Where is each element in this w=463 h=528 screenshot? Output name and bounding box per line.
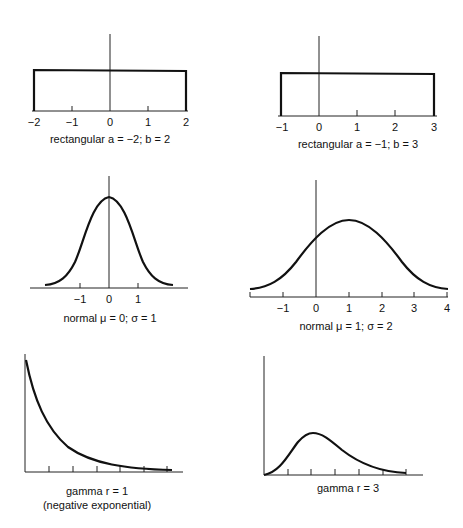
panel-gamma-2: gamma r = 3 [264,356,423,494]
tick-label: −1 [66,116,79,128]
density-curve [250,220,448,289]
density-curve [264,433,406,475]
panel-caption: normal μ = 0; σ = 1 [63,312,156,324]
panel-caption: gamma r = 1 [66,485,128,497]
panel-subcaption: (negative exponential) [43,499,151,511]
panel-caption: normal μ = 1; σ = 2 [299,320,392,332]
panel-caption: rectangular a = −2; b = 2 [50,133,170,145]
tick-label: 0 [107,116,113,128]
tick-label: 3 [431,121,437,133]
tick-label: 2 [379,302,385,314]
tick-label: 2 [392,121,398,133]
tick-label: 0 [313,302,319,314]
density-curve [281,73,434,116]
tick-label: 0 [106,293,112,305]
tick-label: 0 [316,121,322,133]
tick-label: −1 [276,121,289,133]
tick-label: 2 [183,116,189,128]
density-curve [26,360,172,470]
panel-normal-2: −1 0 1 2 3 4 normal μ = 1; σ = 2 [250,180,450,332]
panel-gamma-1: gamma r = 1 (negative exponential) [25,354,183,511]
panel-rectangular-1: −2 −1 0 1 2 rectangular a = −2; b = 2 [28,34,189,145]
panel-rectangular-2: −1 0 1 2 3 rectangular a = −1; b = 3 [276,36,437,150]
panel-normal-1: −1 0 1 normal μ = 0; σ = 1 [30,176,188,324]
tick-label: 1 [145,116,151,128]
tick-label: −2 [28,116,41,128]
tick-label: 1 [135,293,141,305]
tick-label: −1 [74,293,87,305]
tick-label: 3 [411,302,417,314]
tick-label: 4 [444,302,450,314]
panel-caption: rectangular a = −1; b = 3 [298,138,418,150]
tick-label: 1 [354,121,360,133]
tick-label: −1 [277,302,290,314]
distribution-figure: −2 −1 0 1 2 rectangular a = −2; b = 2 −1… [0,0,463,528]
panel-caption: gamma r = 3 [317,482,379,494]
tick-label: 1 [346,302,352,314]
